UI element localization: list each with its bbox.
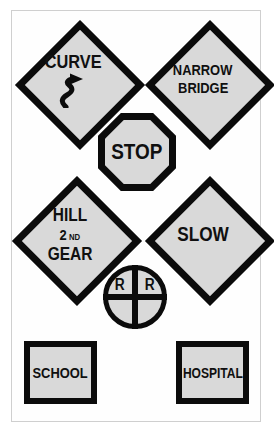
sign-railroad-letters: R R	[103, 265, 167, 329]
sign-hill-label-line1: HILL	[53, 206, 87, 224]
sign-hill-number: 2	[60, 226, 67, 243]
sign-curve-label: CURVE	[45, 52, 102, 71]
traffic-sign-chart: CURVE NARROW BRIDGE STOP HILL 2 ND	[0, 0, 274, 433]
sign-hospital-label: HOSPITAL	[183, 366, 243, 380]
sign-narrow-bridge-label-line2: BRIDGE	[178, 80, 228, 95]
sign-railroad-crossing[interactable]: R R	[103, 265, 167, 329]
sign-railroad-label-left: R	[115, 277, 125, 293]
sign-hill-ordinal-suffix: ND	[69, 232, 80, 242]
sign-hospital-face: HOSPITAL	[176, 341, 249, 404]
sign-school-label: SCHOOL	[33, 365, 88, 380]
curve-arrow-icon	[56, 72, 90, 108]
sign-hill-ordinal-group: 2 ND	[59, 226, 80, 243]
sign-school[interactable]: SCHOOL	[24, 341, 97, 404]
sign-hospital[interactable]: HOSPITAL	[176, 341, 249, 404]
sign-stop-label: STOP	[111, 141, 162, 163]
sign-narrow-bridge-label-line1: NARROW	[173, 62, 232, 77]
sign-slow-label: SLOW	[177, 224, 229, 244]
sign-school-face: SCHOOL	[24, 341, 97, 404]
sign-railroad-label-right: R	[145, 277, 155, 293]
sign-hill-label-line3: GEAR	[48, 245, 93, 263]
